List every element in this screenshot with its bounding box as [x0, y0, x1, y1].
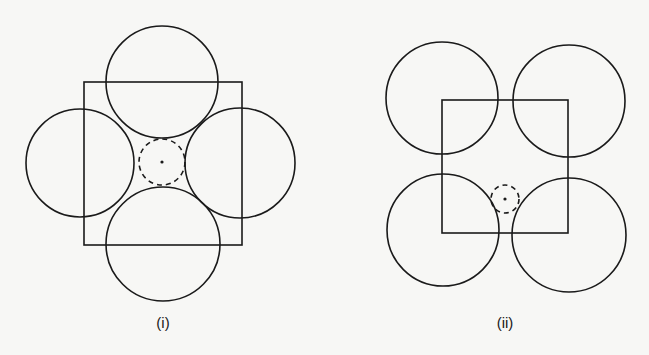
atom-circle-bottom-left [387, 174, 499, 286]
center-dot [503, 197, 506, 200]
figure-ii-label: (ii) [475, 314, 535, 331]
packing-diagram [0, 0, 649, 355]
atom-circle-left [26, 109, 134, 217]
atom-circle-bottom [106, 187, 220, 301]
figure-i-label: (i) [133, 314, 193, 331]
unit-cell-square [84, 82, 242, 245]
center-dot [160, 160, 163, 163]
atom-circle-bottom-right [512, 178, 626, 292]
figure-ii [386, 42, 626, 292]
atom-circle-top-right [513, 45, 625, 157]
figure-i [26, 26, 295, 301]
